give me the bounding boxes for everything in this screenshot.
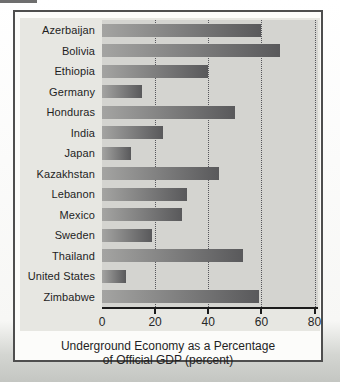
bar-row-kazakhstan xyxy=(102,164,318,185)
category-label-thailand: Thailand xyxy=(20,246,100,267)
bar-row-bolivia xyxy=(102,41,318,62)
bar-row-japan xyxy=(102,143,318,164)
tick-label-0: 0 xyxy=(99,315,106,329)
bar-lebanon xyxy=(102,188,187,201)
category-label-lebanon: Lebanon xyxy=(20,184,100,205)
x-axis-tick-labels: 020406080 xyxy=(102,315,318,329)
tick-label-40: 40 xyxy=(202,315,215,329)
bar-japan xyxy=(102,147,131,160)
category-label-germany: Germany xyxy=(20,82,100,103)
bar-sweden xyxy=(102,229,152,242)
bar-row-sweden xyxy=(102,225,318,246)
category-label-kazakhstan: Kazakhstan xyxy=(20,164,100,185)
category-label-azerbaijan: Azerbaijan xyxy=(20,20,100,41)
bar-mexico xyxy=(102,208,182,221)
bar-azerbaijan xyxy=(102,24,261,37)
category-label-united-states: United States xyxy=(20,266,100,287)
category-label-ethiopia: Ethiopia xyxy=(20,61,100,82)
axis-caption: Underground Economy as a Percentage of O… xyxy=(15,339,321,367)
category-label-sweden: Sweden xyxy=(20,225,100,246)
scanned-figure-page: AzerbaijanBoliviaEthiopiaGermanyHonduras… xyxy=(0,0,340,382)
bar-india xyxy=(102,126,163,139)
bar-row-zimbabwe xyxy=(102,287,318,308)
bar-row-united-states xyxy=(102,266,318,287)
bar-row-india xyxy=(102,123,318,144)
category-label-zimbabwe: Zimbabwe xyxy=(20,287,100,308)
category-label-bolivia: Bolivia xyxy=(20,41,100,62)
category-labels: AzerbaijanBoliviaEthiopiaGermanyHonduras… xyxy=(20,20,100,307)
tick-label-20: 20 xyxy=(148,315,161,329)
tick-80 xyxy=(314,309,316,314)
bar-ethiopia xyxy=(102,65,208,78)
tick-label-60: 60 xyxy=(255,315,268,329)
tick-40 xyxy=(207,309,209,314)
bar-thailand xyxy=(102,249,243,262)
chart-panel: AzerbaijanBoliviaEthiopiaGermanyHonduras… xyxy=(20,18,320,331)
bar-germany xyxy=(102,85,142,98)
plot-area xyxy=(102,20,318,309)
bar-row-germany xyxy=(102,82,318,103)
bar-united-states xyxy=(102,270,126,283)
bar-bolivia xyxy=(102,44,280,57)
tick-20 xyxy=(154,309,156,314)
bar-row-ethiopia xyxy=(102,61,318,82)
category-label-japan: Japan xyxy=(20,143,100,164)
bar-row-thailand xyxy=(102,246,318,267)
scan-artifact-mark xyxy=(0,0,37,3)
bar-row-azerbaijan xyxy=(102,20,318,41)
bar-row-mexico xyxy=(102,205,318,226)
category-label-india: India xyxy=(20,123,100,144)
axis-caption-line2: of Official GDP (percent) xyxy=(15,353,321,367)
bar-row-lebanon xyxy=(102,184,318,205)
bar-honduras xyxy=(102,106,235,119)
category-label-mexico: Mexico xyxy=(20,205,100,226)
axis-caption-line1: Underground Economy as a Percentage xyxy=(15,339,321,353)
bar-zimbabwe xyxy=(102,290,259,303)
tick-60 xyxy=(260,309,262,314)
bar-row-honduras xyxy=(102,102,318,123)
bar-kazakhstan xyxy=(102,167,219,180)
tick-label-80: 80 xyxy=(308,315,321,329)
category-label-honduras: Honduras xyxy=(20,102,100,123)
figure-box: AzerbaijanBoliviaEthiopiaGermanyHonduras… xyxy=(13,10,323,362)
